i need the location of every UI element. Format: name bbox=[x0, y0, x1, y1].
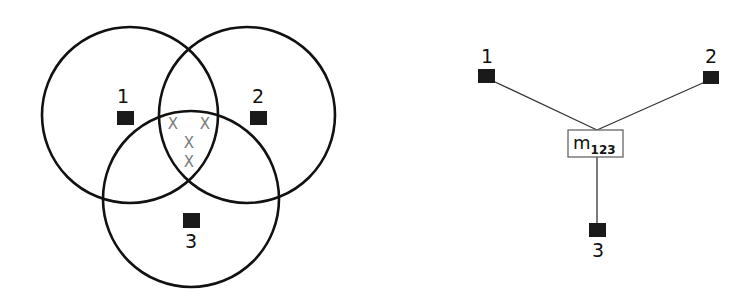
graph-node-label-2: 2 bbox=[705, 45, 717, 67]
x-mark-icon: X bbox=[200, 115, 210, 133]
venn-node-2: 2 bbox=[250, 85, 267, 125]
venn-node-square-2 bbox=[250, 111, 267, 125]
venn-node-label-2: 2 bbox=[252, 85, 264, 107]
center-node-main: m bbox=[573, 132, 591, 153]
venn-node-label-1: 1 bbox=[117, 85, 129, 107]
x-mark-icon: X bbox=[184, 153, 194, 171]
edge-2-to-m123 bbox=[597, 82, 705, 130]
x-mark-icon: X bbox=[168, 115, 178, 133]
x-mark-icon: X bbox=[184, 134, 194, 152]
graph-node-label-1: 1 bbox=[481, 45, 493, 67]
venn-circle-2 bbox=[159, 27, 335, 203]
edge-1-to-m123 bbox=[493, 81, 597, 130]
center-node-subscript: 123 bbox=[591, 143, 616, 157]
graph-node-2: 2 bbox=[703, 45, 719, 84]
graph-node-3: 3 bbox=[589, 223, 606, 261]
venn-node-square-1 bbox=[117, 111, 134, 125]
graph-node-square-1 bbox=[478, 69, 495, 83]
graph-node-square-3 bbox=[589, 223, 606, 237]
venn-node-square-3 bbox=[183, 213, 200, 228]
venn-diagram: 1 2 3 X X X X bbox=[42, 27, 335, 287]
venn-node-label-3: 3 bbox=[185, 230, 197, 252]
venn-and-graph-diagram: 1 2 3 X X X X 1 2 3 bbox=[0, 0, 754, 301]
graph-node-label-3: 3 bbox=[592, 239, 604, 261]
star-graph: 1 2 3 m123 bbox=[478, 45, 719, 261]
center-node-m123: m123 bbox=[568, 130, 623, 157]
venn-node-1: 1 bbox=[117, 85, 134, 125]
graph-node-square-2 bbox=[703, 71, 719, 84]
graph-node-1: 1 bbox=[478, 45, 495, 83]
venn-node-3: 3 bbox=[183, 213, 200, 252]
